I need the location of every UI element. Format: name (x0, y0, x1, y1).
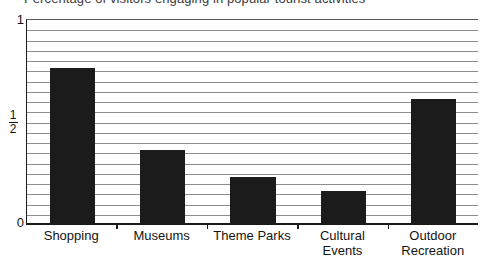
x-axis-label-theme-parks: Theme Parks (207, 228, 297, 243)
bar-cultural-events (321, 191, 366, 224)
y-axis-tick-half: 1 2 (4, 110, 22, 135)
y-axis-tick-0: 0 (2, 216, 24, 229)
x-axis-label-line: Outdoor (388, 228, 478, 243)
bar-chart: Percentage of visitors engaging in popul… (0, 0, 480, 268)
bar-shopping (50, 68, 95, 224)
bar-series (27, 20, 478, 224)
bar-theme-parks (230, 177, 275, 224)
fraction-denominator: 2 (4, 124, 22, 135)
fraction-numerator: 1 (4, 110, 22, 121)
y-axis-labels: 1 1 2 0 (0, 0, 24, 268)
plot-area (26, 19, 478, 224)
x-axis-labels: ShoppingMuseumsTheme ParksCulturalEvents… (26, 228, 478, 268)
bar-outdoor-recreation (411, 99, 456, 224)
y-axis-tick-1: 1 (2, 13, 24, 26)
bar-museums (140, 150, 185, 224)
x-axis-label-line: Museums (116, 228, 206, 243)
x-axis-label-cultural-events: CulturalEvents (297, 228, 387, 258)
x-axis-label-outdoor-recreation: OutdoorRecreation (388, 228, 478, 258)
x-axis-label-line: Events (297, 243, 387, 258)
x-axis-label-line: Shopping (26, 228, 116, 243)
x-axis-label-line: Recreation (388, 243, 478, 258)
chart-title-clipped: Percentage of visitors engaging in popul… (0, 0, 480, 9)
page-title: Percentage of visitors engaging in popul… (24, 0, 365, 6)
x-axis-label-line: Cultural (297, 228, 387, 243)
x-axis-label-shopping: Shopping (26, 228, 116, 243)
x-axis-baseline (26, 223, 478, 225)
x-axis-label-line: Theme Parks (207, 228, 297, 243)
x-axis-label-museums: Museums (116, 228, 206, 243)
